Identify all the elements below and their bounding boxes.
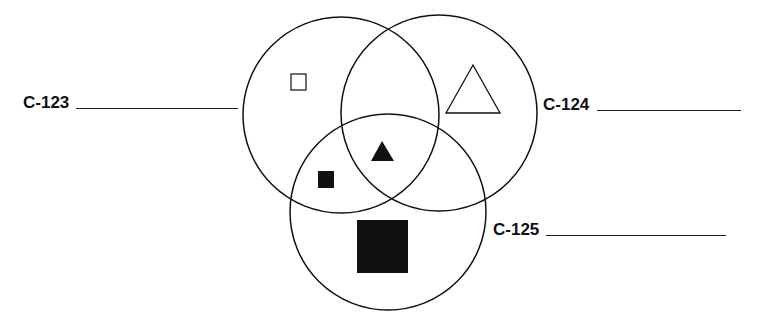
open-triangle-icon xyxy=(446,65,500,113)
open-square-icon xyxy=(291,74,306,90)
blank-line-c123 xyxy=(76,108,238,109)
venn-diagram xyxy=(0,0,759,331)
blank-line-c124 xyxy=(597,110,741,111)
filled-triangle-icon xyxy=(371,141,394,161)
label-c125: C-125 xyxy=(493,221,539,238)
label-c123: C-123 xyxy=(23,94,69,111)
large-filled-square-icon xyxy=(357,220,408,273)
label-c124: C-124 xyxy=(543,96,589,113)
blank-line-c125 xyxy=(546,235,726,236)
small-filled-square-icon xyxy=(318,171,334,188)
circle-c125 xyxy=(290,114,486,310)
